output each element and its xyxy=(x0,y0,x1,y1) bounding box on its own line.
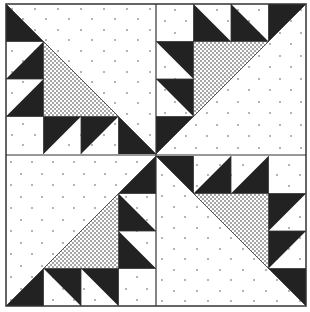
quadrant-top-right xyxy=(156,4,306,154)
quadrant-top-left xyxy=(6,4,156,154)
quadrant-bottom-left xyxy=(6,156,156,306)
quilt-block-figure xyxy=(0,0,310,312)
quadrant-bottom-right xyxy=(156,156,306,306)
